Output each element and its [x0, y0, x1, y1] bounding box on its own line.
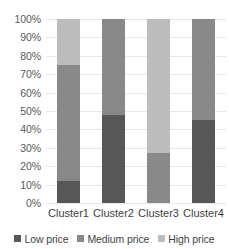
legend-item-medium-price[interactable]: Medium price — [77, 233, 149, 245]
legend-label: Low price — [24, 233, 68, 245]
bars-container — [46, 19, 226, 203]
legend-swatch-icon — [14, 235, 21, 242]
y-axis-tick-label: 60% — [0, 88, 41, 98]
bar-segment[interactable] — [102, 19, 125, 115]
bar-cluster4[interactable] — [192, 19, 215, 203]
bar-segment[interactable] — [57, 65, 80, 181]
y-axis-tick-label: 70% — [0, 69, 41, 79]
bar-cluster2[interactable] — [102, 19, 125, 203]
bar-cluster3[interactable] — [147, 19, 170, 203]
bar-cluster1[interactable] — [57, 19, 80, 203]
x-axis: Cluster1Cluster2Cluster3Cluster4 — [40, 206, 229, 225]
y-axis: 0%10%20%30%40%50%60%70%80%90%100% — [0, 19, 44, 203]
legend-label: Medium price — [87, 233, 149, 245]
y-axis-tick-label: 0% — [0, 198, 41, 208]
bar-segment[interactable] — [192, 19, 215, 120]
y-axis-tick-label: 100% — [0, 14, 41, 24]
stacked-bar-chart: 0%10%20%30%40%50%60%70%80%90%100% Cluste… — [0, 0, 229, 249]
y-axis-tick-label: 50% — [0, 106, 41, 116]
x-axis-label-1: Cluster1 — [46, 206, 92, 221]
plot-area: 0%10%20%30%40%50%60%70%80%90%100% — [0, 0, 229, 205]
x-axis-label-4: Cluster4 — [181, 206, 227, 221]
legend-swatch-icon — [77, 235, 84, 242]
bar-segment[interactable] — [147, 19, 170, 153]
y-axis-tick-label: 30% — [0, 143, 41, 153]
x-axis-label-3: Cluster3 — [136, 206, 182, 221]
y-axis-tick-label: 20% — [0, 161, 41, 171]
bar-segment[interactable] — [57, 181, 80, 203]
bar-segment[interactable] — [192, 120, 215, 203]
y-axis-tick-label: 90% — [0, 32, 41, 42]
legend-swatch-icon — [158, 235, 165, 242]
x-axis-label-2: Cluster2 — [91, 206, 137, 221]
y-axis-tick-label: 10% — [0, 180, 41, 190]
bar-segment[interactable] — [57, 19, 80, 65]
chart-legend: Low priceMedium priceHigh price — [0, 230, 229, 247]
y-axis-tick-label: 40% — [0, 124, 41, 134]
legend-item-low-price[interactable]: Low price — [14, 233, 68, 245]
legend-item-high-price[interactable]: High price — [158, 233, 214, 245]
y-axis-tick-label: 80% — [0, 51, 41, 61]
legend-label: High price — [168, 233, 214, 245]
bar-segment[interactable] — [102, 115, 125, 203]
bar-segment[interactable] — [147, 153, 170, 203]
gridline — [46, 203, 226, 204]
